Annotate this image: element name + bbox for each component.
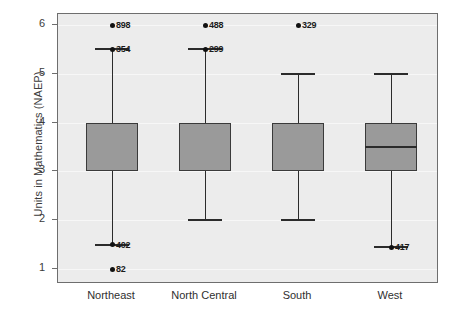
- box-south-outlier-label-329: 329: [302, 20, 316, 30]
- box-northeast-outlier-dot-898: [110, 23, 115, 28]
- y-tick-label-3: 3: [21, 164, 45, 175]
- box-west-upper-cap: [374, 73, 408, 75]
- box-south-body: [272, 123, 324, 172]
- box-northeast-outlier-label-82: 82: [116, 264, 126, 274]
- y-tick-label-5: 5: [21, 67, 45, 78]
- gridline-y-1: [58, 269, 437, 270]
- y-tick-label-2: 2: [21, 213, 45, 224]
- plot-area: 89835440282488299329417: [57, 13, 438, 283]
- box-north-central-outlier-dot-488: [203, 23, 208, 28]
- gridline-y-2: [58, 220, 437, 221]
- y-tick-label-6: 6: [21, 18, 45, 29]
- box-south-lower-whisker: [298, 171, 299, 220]
- box-west-median: [365, 146, 417, 148]
- box-west-outlier-label-417: 417: [395, 242, 409, 252]
- box-north-central-outlier-dot-299: [203, 47, 208, 52]
- box-northeast-outlier-dot-402: [110, 242, 115, 247]
- box-northeast-outlier-dot-82: [110, 267, 115, 272]
- box-northeast-body: [86, 123, 138, 172]
- gridline-y-3: [58, 171, 437, 172]
- box-west-lower-whisker: [391, 171, 392, 247]
- y-axis-title: Units in Mathematics (NAEP): [32, 24, 44, 264]
- box-north-central-outlier-label-488: 488: [209, 20, 223, 30]
- box-north-central-body: [179, 123, 231, 172]
- box-north-central-lower-whisker: [205, 171, 206, 220]
- y-tick-label-1: 1: [21, 262, 45, 273]
- box-north-central-upper-whisker: [205, 49, 206, 122]
- box-northeast-outlier-dot-354: [110, 47, 115, 52]
- box-northeast-outlier-label-402: 402: [116, 240, 130, 250]
- box-west-upper-whisker: [391, 74, 392, 123]
- box-northeast-upper-whisker: [112, 49, 113, 122]
- box-south-upper-whisker: [298, 74, 299, 123]
- x-tick-label-west: West: [330, 289, 449, 301]
- box-northeast-outlier-label-898: 898: [116, 20, 130, 30]
- y-tick-label-4: 4: [21, 116, 45, 127]
- box-northeast-outlier-label-354: 354: [116, 44, 130, 54]
- box-plot-figure: Units in Mathematics (NAEP) 123456 North…: [0, 0, 449, 317]
- box-north-central-outlier-label-299: 299: [209, 44, 223, 54]
- box-south-outlier-dot-329: [296, 23, 301, 28]
- box-south-lower-cap: [281, 219, 315, 221]
- box-south-upper-cap: [281, 73, 315, 75]
- box-northeast-lower-whisker: [112, 171, 113, 244]
- box-west-outlier-dot-417: [389, 245, 394, 250]
- box-north-central-lower-cap: [188, 219, 222, 221]
- gridline-y-6: [58, 25, 437, 26]
